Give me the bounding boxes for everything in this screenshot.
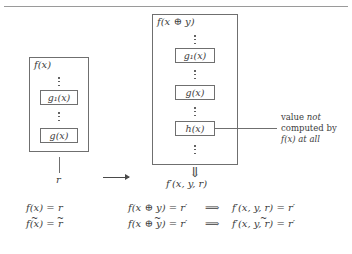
equation-left-row-1-rel: = — [43, 202, 58, 213]
implies-symbol-row-1: ⟹ — [205, 203, 219, 213]
equation-left-row-2-rhs-tilde-group: ~r — [58, 219, 63, 229]
figure-canvas: f(x) g₁(x) g(x) r f(x ⊕ y) g₁(x) g(x) h(… — [0, 0, 352, 254]
equation-left-row-1: f(x) = r — [26, 203, 63, 213]
right-output-label: f′(x, y, r) — [166, 179, 207, 189]
annotation-line-3: f(x) at all — [281, 134, 337, 145]
equation-middle-row-1: f(x ⊕ y) = r′ — [128, 203, 187, 213]
transform-arrow-head — [125, 174, 130, 180]
right-vdots-1 — [192, 33, 198, 46]
annotation-line-3-tail: at all — [296, 134, 320, 144]
tilde-mark: ~ — [260, 214, 267, 223]
transform-arrow — [103, 173, 129, 181]
equation-left-row-1-lhs: f(x) — [26, 202, 43, 213]
equation-right-row-2: ~f′(x, y, r) = r′ — [232, 219, 295, 229]
equation-left-row-2-rel: = — [43, 218, 58, 229]
equation-left-row-2-lhs-tilde-group: ~f(x) — [26, 219, 43, 229]
left-output-label: r — [56, 175, 61, 185]
equation-middle-row-1-text: f(x ⊕ y) = r′ — [128, 202, 187, 213]
right-inner-box-h: h(x) — [175, 121, 215, 136]
equation-right-row-1: f′(x, y, r) = r′ — [232, 203, 295, 213]
tilde-mark: ~ — [31, 214, 38, 223]
left-outer-box-label: f(x) — [34, 60, 51, 70]
annotation-line-1: value not — [281, 112, 337, 123]
left-inner-box-g: g(x) — [40, 128, 78, 143]
left-vdots-top — [56, 75, 62, 88]
implies-symbol-row-2: ⟹ — [205, 219, 219, 229]
right-inner-box-g1: g₁(x) — [175, 48, 215, 63]
annotation-line-1-emphasis: not — [307, 112, 321, 122]
left-output-connector — [59, 157, 60, 173]
right-vdots-2 — [192, 68, 198, 81]
equation-middle-row-2: ~f(x ⊕ y) = r′ — [128, 219, 187, 229]
equation-middle-row-2-tilde-group: ~f(x ⊕ y) = r′ — [128, 219, 187, 229]
right-vdots-3 — [192, 105, 198, 118]
annotation-text: value not computed by f(x) at all — [281, 112, 337, 145]
right-vdots-4 — [192, 143, 198, 156]
tilde-mark: ~ — [57, 214, 64, 223]
annotation-line-2: computed by — [281, 123, 337, 134]
annotation-line-3-math: f(x) — [281, 134, 296, 144]
annotation-line-1-a: value — [281, 112, 307, 122]
equation-right-row-1-text: f′(x, y, r) = r′ — [232, 202, 295, 213]
tilde-mark: ~ — [154, 214, 161, 223]
equation-left-row-2: ~f(x) = ~r — [26, 219, 63, 229]
right-outer-box-label: f(x ⊕ y) — [157, 17, 195, 27]
equation-left-row-1-rhs: r — [58, 202, 63, 213]
equation-right-row-2-tilde-group: ~f′(x, y, r) = r′ — [232, 219, 295, 229]
right-output-double-arrow: ⇓ — [189, 165, 201, 179]
left-inner-box-g1: g₁(x) — [40, 90, 78, 105]
top-horizontal-rule — [4, 6, 348, 7]
right-inner-box-g: g(x) — [175, 85, 215, 100]
left-vdots-middle — [56, 110, 62, 123]
annotation-leader-line — [215, 128, 277, 129]
